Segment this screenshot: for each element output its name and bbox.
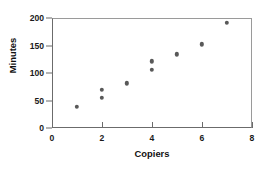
data-points-layer xyxy=(52,18,252,128)
data-point xyxy=(225,21,229,25)
data-point xyxy=(125,81,129,85)
data-point xyxy=(100,88,104,92)
x-tick-label: 4 xyxy=(150,133,155,143)
scatter-chart: 050100150200 02468 Copiers Minutes xyxy=(0,0,265,175)
data-point xyxy=(100,96,104,100)
data-point xyxy=(175,52,179,56)
data-point xyxy=(75,105,79,109)
x-tick-label: 8 xyxy=(250,133,255,143)
data-point xyxy=(200,42,204,46)
x-tick-label: 6 xyxy=(200,133,205,143)
y-tick-label: 50 xyxy=(0,96,44,106)
x-tick-mark xyxy=(252,122,253,128)
x-axis-label: Copiers xyxy=(52,148,252,159)
data-point xyxy=(150,59,154,63)
y-axis-label: Minutes xyxy=(7,21,18,91)
x-tick-label: 0 xyxy=(50,133,55,143)
data-point xyxy=(150,67,154,71)
x-tick-label: 2 xyxy=(100,133,105,143)
y-tick-label: 0 xyxy=(0,123,44,133)
